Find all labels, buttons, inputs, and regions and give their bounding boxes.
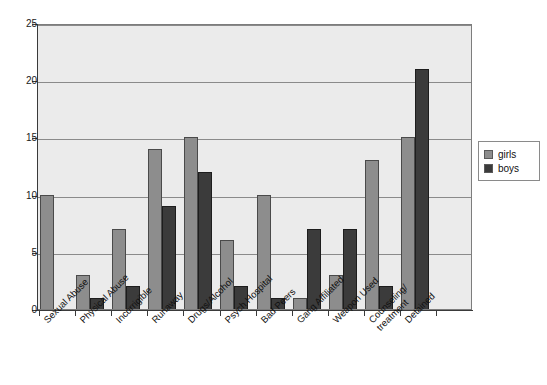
legend-label-boys: boys [498, 163, 519, 174]
x-tick-mark [183, 311, 184, 316]
x-tick-mark [39, 311, 40, 316]
x-tick-mark [220, 311, 221, 316]
x-tick-mark [436, 311, 437, 316]
x-axis-label: Incorrigible [114, 285, 154, 325]
x-tick-mark [147, 311, 148, 316]
x-axis-label: Runaway [150, 290, 185, 325]
x-tick-mark [400, 311, 401, 316]
chart-legend: girls boys [478, 141, 540, 181]
x-tick-mark [256, 311, 257, 316]
x-tick-mark [292, 311, 293, 316]
x-tick-mark [328, 311, 329, 316]
legend-item-girls: girls [484, 147, 535, 161]
x-tick-mark [75, 311, 76, 316]
x-axis-label: Bad Peers [259, 287, 298, 326]
grouped-bar-chart: 0510152025 Sexual AbusePhysical AbuseInc… [0, 0, 547, 385]
legend-label-girls: girls [498, 149, 516, 160]
x-tick-mark [364, 311, 365, 316]
x-tick-mark [111, 311, 112, 316]
x-axis-labels: Sexual AbusePhysical AbuseIncorrigibleRu… [0, 0, 547, 385]
legend-item-boys: boys [484, 161, 535, 175]
legend-swatch-boys-icon [484, 164, 493, 173]
legend-swatch-girls-icon [484, 150, 493, 159]
